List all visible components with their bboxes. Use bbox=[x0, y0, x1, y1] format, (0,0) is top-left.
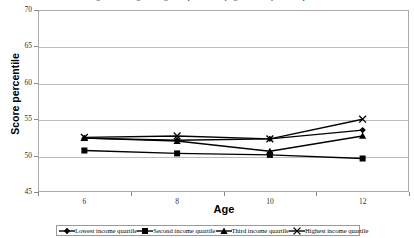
y-tick-label: 55 bbox=[10, 115, 32, 123]
data-point-diamond bbox=[64, 227, 70, 233]
legend-marker-diamond-icon bbox=[59, 226, 75, 236]
data-point-square bbox=[174, 150, 180, 156]
x-tick-label: 12 bbox=[348, 197, 378, 206]
x-tick-mark bbox=[316, 192, 317, 196]
legend-item-third-income-quartile[interactable]: Third income quartile bbox=[216, 226, 290, 236]
legend-item-lowest-income-quartile[interactable]: Lowest income quartile bbox=[59, 226, 137, 236]
data-point-square bbox=[142, 228, 148, 234]
x-tick-mark bbox=[131, 192, 132, 196]
y-tick-mark bbox=[34, 46, 38, 47]
legend-label: Third income quartile bbox=[232, 226, 290, 236]
x-tick-mark bbox=[409, 192, 410, 196]
chart-title: Figure 3. Average reading score percenti… bbox=[0, 0, 414, 1]
y-tick-mark bbox=[34, 119, 38, 120]
data-point-square bbox=[360, 156, 366, 162]
series-lowest-income-quartile bbox=[81, 127, 366, 144]
x-tick-mark bbox=[224, 192, 225, 196]
legend-label: Highest income quartile bbox=[305, 226, 368, 236]
series-line bbox=[84, 119, 362, 139]
data-point-triangle bbox=[359, 132, 366, 138]
series-highest-income-quartile bbox=[81, 116, 366, 142]
legend-item-second-income-quartile[interactable]: Second income quartile bbox=[137, 226, 215, 236]
legend-label: Second income quartile bbox=[153, 226, 215, 236]
y-tick-label: 70 bbox=[10, 6, 32, 14]
legend-marker-square-icon bbox=[137, 226, 153, 236]
chart-legend: Lowest income quartileSecond income quar… bbox=[56, 225, 360, 236]
y-tick-label: 50 bbox=[10, 152, 32, 160]
x-tick-mark bbox=[38, 192, 39, 196]
series-line bbox=[84, 151, 362, 159]
x-tick-label: 10 bbox=[255, 197, 285, 206]
y-tick-mark bbox=[34, 83, 38, 84]
legend-marker-triangle-icon bbox=[216, 226, 232, 236]
series-layer bbox=[38, 10, 409, 192]
series-line bbox=[84, 136, 362, 151]
series-second-income-quartile bbox=[81, 148, 365, 162]
legend-marker-cross-icon bbox=[289, 226, 305, 236]
line-chart: Figure 3. Average reading score percenti… bbox=[0, 0, 414, 238]
series-third-income-quartile bbox=[81, 132, 366, 154]
y-tick-label: 60 bbox=[10, 79, 32, 87]
legend-item-highest-income-quartile[interactable]: Highest income quartile bbox=[289, 226, 368, 236]
y-axis-title: Score percentile bbox=[9, 46, 21, 142]
legend-label: Lowest income quartile bbox=[75, 226, 137, 236]
y-tick-label: 45 bbox=[10, 188, 32, 196]
y-tick-mark bbox=[34, 156, 38, 157]
data-point-square bbox=[81, 148, 87, 154]
y-tick-label: 65 bbox=[10, 42, 32, 50]
x-tick-label: 6 bbox=[69, 197, 99, 206]
y-tick-mark bbox=[34, 10, 38, 11]
x-tick-label: 8 bbox=[162, 197, 192, 206]
